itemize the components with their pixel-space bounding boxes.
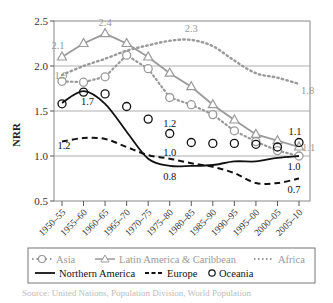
annotations: 2.12.41.11.92.31.81.70.81.01.21.00.71.21… bbox=[51, 17, 315, 195]
series-northern-america bbox=[62, 91, 299, 166]
y-axis-title: NRR bbox=[10, 122, 22, 147]
oceania-marker bbox=[144, 115, 152, 123]
legend: AsiaLatin America & CaribbeanAfricaNorth… bbox=[28, 248, 315, 283]
circle-marker bbox=[80, 78, 88, 86]
triangle-marker bbox=[165, 68, 174, 76]
oceania-marker bbox=[230, 139, 238, 147]
legend-label: Asia bbox=[56, 254, 76, 265]
oceania-marker bbox=[101, 90, 109, 98]
circle-marker bbox=[144, 65, 152, 73]
data-label: 1.0 bbox=[287, 161, 300, 172]
legend-label: Europe bbox=[167, 268, 198, 279]
data-label: 1.8 bbox=[301, 85, 314, 96]
oceania-marker bbox=[209, 139, 217, 147]
legend-label: Oceania bbox=[219, 268, 254, 279]
asia-line bbox=[62, 55, 299, 156]
circle-marker bbox=[209, 111, 217, 119]
data-label: 1.9 bbox=[54, 70, 67, 81]
y-tick-label: 2.5 bbox=[34, 15, 48, 27]
y-tick-label: 1.5 bbox=[34, 105, 48, 117]
series-oceania bbox=[58, 88, 303, 151]
triangle-marker bbox=[251, 129, 260, 137]
y-tick-label: 1.0 bbox=[34, 150, 48, 162]
data-label: 1.7 bbox=[81, 96, 94, 107]
oceania-marker bbox=[166, 130, 174, 138]
oceania-marker bbox=[187, 139, 195, 147]
data-label: 1.2 bbox=[57, 140, 70, 151]
y-tick-label: 2.0 bbox=[34, 60, 48, 72]
data-label: 1.0 bbox=[163, 147, 176, 158]
series-latin-america-caribbean bbox=[58, 29, 304, 150]
legend-circle-icon bbox=[39, 256, 46, 263]
series-layer bbox=[58, 29, 304, 184]
nrr-line-chart: 0.51.01.52.02.5 1950–551955–601960–65196… bbox=[0, 0, 333, 303]
oceania-marker bbox=[58, 100, 66, 108]
northern-america-line bbox=[62, 91, 299, 166]
legend-label: Latin America & Caribbean bbox=[119, 254, 237, 265]
data-label: 2.3 bbox=[185, 23, 198, 34]
legend-label: Northern America bbox=[59, 268, 135, 279]
circle-marker bbox=[230, 127, 238, 135]
data-label: 1.1 bbox=[288, 126, 301, 137]
circle-marker bbox=[101, 73, 109, 81]
data-label: 1.1 bbox=[302, 142, 315, 153]
data-label: 0.7 bbox=[287, 184, 300, 195]
series-africa bbox=[62, 40, 299, 84]
data-label: 2.1 bbox=[51, 40, 64, 51]
data-label: 2.4 bbox=[99, 17, 113, 28]
triangle-marker bbox=[230, 115, 239, 123]
x-axis: 1950–551955–601960–651965–701970–751975–… bbox=[37, 201, 305, 238]
series-asia bbox=[58, 51, 303, 160]
legend-label: Africa bbox=[278, 254, 305, 265]
latam-line bbox=[62, 34, 299, 147]
africa-line bbox=[62, 40, 299, 84]
y-tick-label: 0.5 bbox=[34, 195, 48, 207]
circle-marker bbox=[187, 101, 195, 109]
plot-area bbox=[54, 21, 310, 201]
circle-marker bbox=[166, 94, 174, 102]
source-caption: Source: United Nations, Population Divis… bbox=[22, 288, 322, 298]
data-label: 0.8 bbox=[163, 171, 176, 182]
oceania-marker bbox=[123, 103, 131, 111]
data-label: 1.2 bbox=[163, 118, 176, 129]
triangle-marker bbox=[101, 29, 110, 37]
